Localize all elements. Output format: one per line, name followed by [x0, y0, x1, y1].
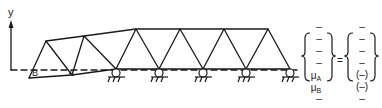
node-label-a: A: [68, 68, 74, 78]
lhs-entry-4: –: [316, 57, 322, 68]
y-axis-arrow-icon: [9, 20, 14, 28]
roller-support-1: [108, 69, 125, 82]
node-label-b: B: [32, 68, 38, 78]
supports: [108, 69, 299, 82]
lhs-entry-mu-a: μA: [311, 70, 322, 82]
lhs-entry-1: –: [316, 21, 322, 32]
roller-support-3: [195, 69, 212, 82]
roller-support-5: [282, 69, 299, 82]
rhs-entry-5: (–): [356, 69, 368, 80]
lhs-entry-3: –: [316, 45, 322, 56]
rhs-entry-4: –: [359, 57, 365, 68]
equals-sign: =: [337, 55, 343, 66]
top-chord: [46, 29, 268, 41]
truss-diagram: y B A – – – – μA μB – = – – – – (–) (–) …: [0, 0, 382, 108]
rhs-entry-6: (–): [356, 81, 368, 92]
rhs-entry-3: –: [359, 45, 365, 56]
rhs-entry-1: –: [359, 21, 365, 32]
roller-support-2: [151, 69, 168, 82]
lhs-entry-2: –: [316, 33, 322, 44]
rhs-entry-2: –: [359, 33, 365, 44]
rhs-entry-7: –: [359, 93, 365, 104]
y-axis-label: y: [8, 6, 14, 18]
roller-support-4: [238, 69, 255, 82]
lhs-entry-7: –: [316, 93, 322, 104]
